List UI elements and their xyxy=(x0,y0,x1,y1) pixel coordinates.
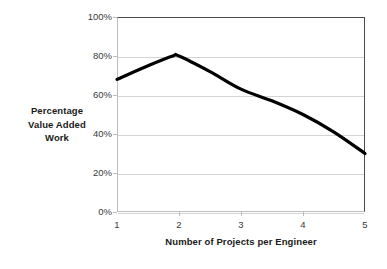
y-axis-title-line-1: Percentage xyxy=(8,104,106,118)
x-tick-label-4: 4 xyxy=(293,219,313,230)
gridline-y-20 xyxy=(118,174,364,175)
y-tick-mark-0% xyxy=(113,212,117,213)
x-tick-label-2: 2 xyxy=(169,219,189,230)
gridline-y-40 xyxy=(118,135,364,136)
chart-container: Percentage Value Added Work 0%20%40%60%8… xyxy=(0,0,387,269)
plot-area xyxy=(117,17,365,212)
y-tick-label-40%: 40% xyxy=(78,129,112,139)
x-tick-mark-3 xyxy=(241,212,242,216)
x-tick-mark-4 xyxy=(303,212,304,216)
x-axis-title: Number of Projects per Engineer xyxy=(117,236,365,247)
y-tick-label-60%: 60% xyxy=(78,90,112,100)
y-tick-label-80%: 80% xyxy=(78,51,112,61)
x-tick-label-5: 5 xyxy=(355,219,375,230)
x-tick-mark-2 xyxy=(179,212,180,216)
y-tick-label-20%: 20% xyxy=(78,168,112,178)
y-tick-label-100%: 100% xyxy=(78,12,112,22)
x-tick-label-1: 1 xyxy=(107,219,127,230)
x-tick-label-3: 3 xyxy=(231,219,251,230)
gridline-y-60 xyxy=(118,96,364,97)
gridline-y-80 xyxy=(118,57,364,58)
y-tick-label-0%: 0% xyxy=(78,207,112,217)
